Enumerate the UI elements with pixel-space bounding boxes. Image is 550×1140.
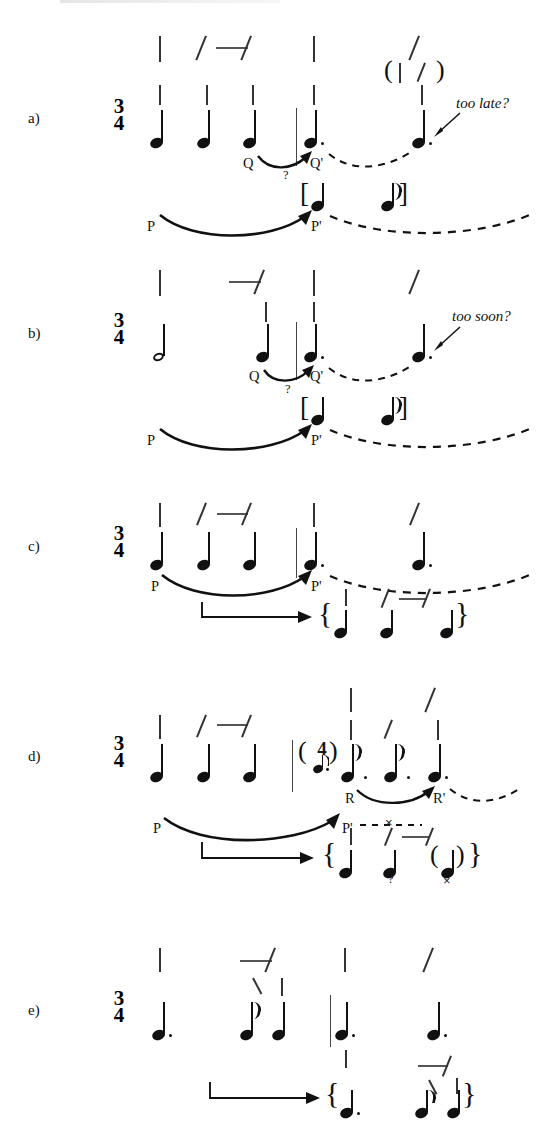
annotation-too-soon: too soon? [452,308,511,325]
bracket-open: [ [300,180,309,207]
grid-tick [344,948,346,972]
note-flag [353,744,363,761]
note-stem [163,1002,165,1034]
time-sig-denominator: 4 [108,329,130,346]
time-sig-denominator: 4 [108,542,130,559]
note-stem [438,1002,440,1034]
panel-c: c) 3 4 P P' { [0,470,550,670]
projection-arrow-P [160,565,318,601]
note-stem [346,1002,348,1034]
grid-connector [217,513,248,515]
projection-label-P: P [153,820,161,837]
grid-tick-diagonal [196,715,207,738]
grid-tick-diagonal [408,36,420,61]
grid-tick [159,948,161,972]
brace-close: } [468,838,482,868]
projection-arrow-R [355,784,443,812]
grid-tick [159,715,161,739]
reinterpretation-arrow [200,600,320,630]
note-stem [315,324,317,356]
note-stem [254,110,256,142]
panel-d: d) 3 4 ( 4 ) [0,660,550,890]
projection-label-R-prime: R' [433,790,445,807]
note-stem [439,744,441,776]
augmentation-dot [407,776,410,779]
meter-change-paren-open: ( [298,738,307,764]
brace-open: { [322,838,336,868]
augmentation-dot [326,768,329,771]
bracket-open: [ [300,394,309,421]
grid-tick [350,720,352,740]
grid-tick [350,688,352,712]
grid-tick [313,85,315,105]
grid-connector [217,724,248,726]
augmentation-dot [429,142,432,145]
note-flag [252,1002,262,1019]
grid-tick [350,828,352,845]
projection-dashed-continuation-P [330,572,535,598]
brace-close: } [462,1078,476,1108]
paren-open-grid: ( [384,57,393,83]
projection-arrow-P [158,205,318,241]
projection-dashed-continuation-Q [329,150,415,172]
projection-arrow-P [158,419,318,455]
projection-label-Q: Q [243,155,253,172]
grid-tick [421,85,423,105]
projection-label-P-prime: P' [311,218,322,235]
panel-a: a) 3 4 ( ) too late? [0,0,550,250]
note-flag [396,744,406,761]
grid-tick [313,270,315,296]
panel-b-label: b) [28,325,41,342]
paren-close-note: ) [456,842,465,868]
grid-connector [418,1065,448,1067]
cancel-cross-note: × [443,873,451,888]
note-stem [267,324,269,356]
question-mark-Q: ? [285,382,291,397]
annotation-pointer-arrow [430,110,464,140]
augmentation-dot [364,776,367,779]
panel-e-label: e) [28,1002,40,1019]
augmentation-dot [169,1034,172,1037]
bracket-close: ] [399,394,408,421]
time-sig-denominator: 4 [108,1007,130,1024]
grid-tick [265,302,267,322]
grid-tick [313,36,315,62]
projection-label-P: P [151,578,159,595]
grid-connector [399,598,427,600]
note-stem [423,324,425,356]
note-stem [254,744,256,776]
projection-dashed-cancelled-P [360,818,430,834]
grid-tick [159,270,161,296]
augmentation-dot [445,776,448,779]
note-flag [427,1090,437,1103]
note-stem [208,744,210,776]
augmentation-dot [357,1112,360,1115]
grid-tick [252,85,254,105]
panel-c-label: c) [28,538,40,555]
barline [292,740,293,792]
note-stem [161,532,163,564]
grid-tick-diagonal [195,36,207,61]
grid-tick-diagonal [408,270,420,295]
time-sig-denominator: 4 [108,115,130,132]
note-stem [161,744,163,776]
projection-label-Q: Q [249,368,259,385]
grid-tick-diagonal [424,688,436,713]
barline [330,995,331,1047]
grid-tick-diagonal [409,503,420,526]
grid-tick-diagonal [417,63,427,82]
grid-tick-diagonal [422,948,434,973]
panel-b-time-signature: 3 4 [108,312,130,346]
grid-tick [159,503,161,527]
paren-close-grid: ) [436,57,445,83]
projection-label-Q-prime: Q' [310,368,323,385]
note-stem [423,110,425,142]
grid-tick [345,589,347,606]
bracket-close: ] [399,180,408,207]
note-stem [208,110,210,142]
time-sig-denominator: 4 [108,752,130,769]
note-stem [315,532,317,564]
projection-label-P: P [147,432,155,449]
panel-e-time-signature: 3 4 [108,990,130,1024]
grid-connector [402,836,430,838]
